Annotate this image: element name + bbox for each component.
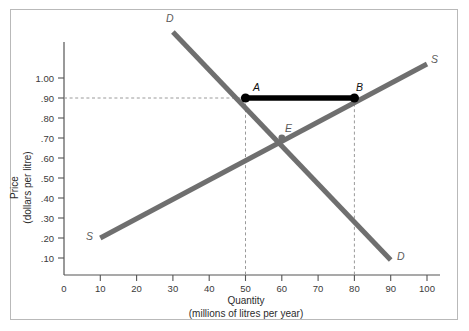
plot-area: [0, 0, 469, 331]
x-tick-marks: [100, 275, 427, 281]
demand-curve-label-top: D: [166, 12, 174, 24]
x-axis-title-sub: (millions of litres per year): [64, 308, 428, 321]
x-tick-label-50: 50: [240, 283, 251, 294]
y-tick-marks: [58, 78, 64, 258]
point-b-label: B: [356, 81, 363, 93]
supply-demand-chart: 1.00 .90 .80 .70 .60 .50 .40 .30 .20 .10…: [0, 0, 469, 331]
x-tick-label-0: 0: [61, 283, 66, 294]
x-tick-label-40: 40: [204, 283, 215, 294]
x-tick-label-100: 100: [419, 283, 435, 294]
point-e-marker: [278, 135, 285, 142]
x-tick-label-90: 90: [385, 283, 396, 294]
x-tick-label-20: 20: [131, 283, 142, 294]
y-tick-label-1.00: 1.00: [12, 73, 54, 84]
x-tick-label-30: 30: [168, 283, 179, 294]
x-axis-title: Quantity (millions of litres per year): [64, 295, 428, 320]
y-tick-label-0.10: .10: [12, 253, 54, 264]
y-axis-title-main: Price: [9, 123, 22, 253]
point-e-label: E: [285, 122, 292, 134]
point-b-marker: [350, 93, 359, 102]
demand-curve: [173, 32, 391, 260]
point-a-marker: [241, 93, 250, 102]
demand-curve-label-bottom: D: [397, 250, 405, 262]
y-axis-title-sub: (dollars per litre): [21, 123, 34, 253]
y-tick-label-0.90: .90: [12, 93, 54, 104]
supply-curve: [100, 64, 427, 238]
x-tick-label-10: 10: [95, 283, 106, 294]
x-axis-title-main: Quantity: [64, 295, 428, 308]
x-tick-label-60: 60: [277, 283, 288, 294]
point-a-label: A: [253, 81, 260, 93]
x-tick-label-70: 70: [313, 283, 324, 294]
supply-curve-label-bottom: S: [86, 230, 93, 242]
x-tick-label-80: 80: [349, 283, 360, 294]
supply-curve-label-top: S: [431, 53, 438, 65]
y-axis-title: Price (dollars per litre): [9, 123, 34, 253]
